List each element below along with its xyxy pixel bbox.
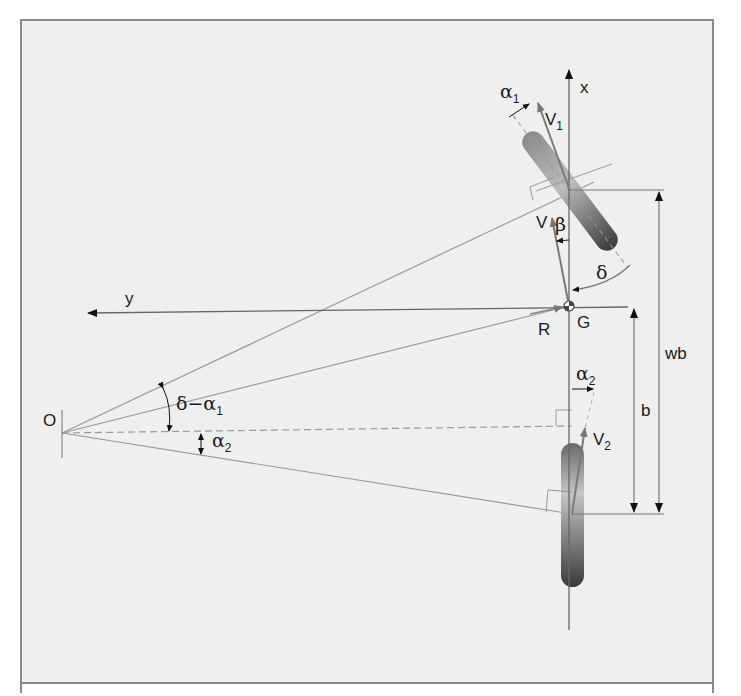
rear-tire [561,443,584,587]
alpha2-top-label: α2 [576,362,596,388]
b-label: b [641,401,650,420]
delta-minus-alpha1-arc [163,388,170,431]
alpha1-label: α1 [500,80,520,106]
delta-label: δ [596,261,607,283]
alpha2-left-label: α2 [212,429,232,455]
velocity-label: V [536,213,548,232]
ray-to-front-wheel [62,182,594,433]
radius-label: R [538,320,550,339]
ray-to-rear-wheel [62,433,572,514]
y-axis-label: y [125,289,134,308]
rear-wheel [561,443,584,587]
delta-minus-alpha1-label: δ−α1 [176,392,223,418]
beta-label: β [555,213,566,235]
beta-arrow [557,240,569,241]
x-axis-label: x [580,78,589,97]
origin-label: O [43,411,56,430]
bicycle-model-diagram: x y wb b V1 α1 V β δ G R α2 V2 O δ−α1 α2 [0,0,741,696]
ray-to-cg [62,306,569,433]
cg-label: G [577,313,590,332]
dashed-horizontal [62,426,572,433]
construction-lines [62,182,594,514]
wheelbase-label: wb [664,344,687,363]
v2-label: V2 [593,430,611,453]
